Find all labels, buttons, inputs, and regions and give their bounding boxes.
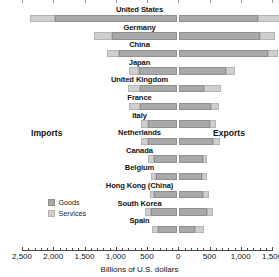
export-services-segment: [207, 208, 213, 215]
export-services-segment: [258, 15, 279, 22]
axis-minor-tick: [203, 248, 204, 251]
export-goods-segment: [179, 226, 195, 233]
axis-major-tick: [53, 247, 54, 251]
axis-tick-label: 500: [203, 252, 216, 261]
chart-row: Italy: [0, 111, 279, 129]
chart-row: Germany: [0, 23, 279, 41]
axis-major-tick: [22, 247, 23, 251]
export-services-segment: [210, 120, 216, 127]
axis-minor-tick: [135, 248, 136, 251]
export-goods-segment: [179, 15, 258, 22]
export-goods-segment: [179, 50, 267, 57]
top-axis-tick: [85, 0, 86, 3]
axis-minor-tick: [78, 248, 79, 251]
bar-group: [0, 85, 279, 92]
bar-group: [0, 32, 279, 39]
country-label: United States: [0, 5, 279, 14]
legend-item: Services: [48, 209, 118, 218]
top-axis-tick: [53, 0, 54, 3]
country-label: United Kingdom: [0, 75, 279, 84]
import-services-segment: [141, 138, 148, 145]
axis-minor-tick: [122, 248, 123, 251]
exports-label: Exports: [213, 128, 245, 138]
top-axis-tick: [178, 0, 179, 3]
top-axis-tick: [272, 0, 273, 3]
axis-minor-tick: [197, 248, 198, 251]
import-goods-segment: [156, 173, 177, 180]
bar-group: [0, 226, 279, 233]
country-label: Belgium: [0, 163, 279, 172]
chart-row: United States: [0, 5, 279, 23]
export-goods-segment: [179, 85, 203, 92]
axis-major-tick: [178, 247, 179, 251]
axis-major-tick: [85, 247, 86, 251]
export-services-segment: [204, 85, 221, 92]
bar-group: [0, 50, 279, 57]
export-goods-segment: [179, 155, 203, 162]
import-goods-segment: [139, 67, 177, 74]
export-services-segment: [203, 191, 210, 198]
import-goods-segment: [112, 32, 177, 39]
import-services-segment: [30, 15, 55, 22]
axis-minor-tick: [60, 248, 61, 251]
export-services-segment: [202, 173, 208, 180]
axis-minor-tick: [66, 248, 67, 251]
axis-minor-tick: [153, 248, 154, 251]
axis-minor-tick: [28, 248, 29, 251]
import-goods-segment: [148, 138, 177, 145]
axis-minor-tick: [103, 248, 104, 251]
bar-group: [0, 67, 279, 74]
import-goods-segment: [151, 208, 177, 215]
chart-row: Belgium: [0, 163, 279, 181]
x-axis: Billions of U.S. dollars 2,5002,0001,500…: [0, 246, 279, 277]
export-services-segment: [268, 50, 279, 57]
axis-title: Billions of U.S. dollars: [0, 265, 279, 274]
plot-area: United StatesGermanyChinaJapanUnited Kin…: [0, 5, 279, 245]
axis-major-tick: [241, 247, 242, 251]
axis-minor-tick: [160, 248, 161, 251]
import-goods-segment: [140, 85, 178, 92]
chart-row: China: [0, 40, 279, 58]
chart-row: Canada: [0, 146, 279, 164]
axis-tick-label: 500: [140, 252, 153, 261]
axis-minor-tick: [260, 248, 261, 251]
top-axis-tick: [116, 0, 117, 3]
bar-group: [0, 155, 279, 162]
axis-minor-tick: [110, 248, 111, 251]
axis-minor-tick: [72, 248, 73, 251]
chart-row: South Korea: [0, 199, 279, 217]
bar-group: [0, 15, 279, 22]
axis-minor-tick: [222, 248, 223, 251]
legend-swatch-services: [48, 210, 55, 217]
bar-group: [0, 103, 279, 110]
axis-tick-label: 1,000: [231, 252, 251, 261]
axis-minor-tick: [228, 248, 229, 251]
import-goods-segment: [55, 15, 177, 22]
import-goods-segment: [148, 120, 177, 127]
import-services-segment: [107, 50, 119, 57]
export-goods-segment: [179, 173, 201, 180]
axis-minor-tick: [216, 248, 217, 251]
axis-tick-label: 1,000: [106, 252, 126, 261]
chart-row: United Kingdom: [0, 75, 279, 93]
country-label: China: [0, 40, 279, 49]
axis-minor-tick: [35, 248, 36, 251]
axis-minor-tick: [172, 248, 173, 251]
axis-major-tick: [272, 247, 273, 251]
axis-major-tick: [116, 247, 117, 251]
axis-minor-tick: [141, 248, 142, 251]
top-axis-tick: [210, 0, 211, 3]
axis-minor-tick: [47, 248, 48, 251]
top-axis-tick: [22, 0, 23, 3]
import-services-segment: [129, 67, 139, 74]
legend-label: Services: [59, 209, 87, 218]
imports-label: Imports: [31, 128, 63, 138]
chart-row: France: [0, 93, 279, 111]
axis-major-tick: [210, 247, 211, 251]
country-label: Japan: [0, 58, 279, 67]
axis-minor-tick: [97, 248, 98, 251]
axis-minor-tick: [91, 248, 92, 251]
axis-minor-tick: [253, 248, 254, 251]
export-services-segment: [195, 226, 204, 233]
country-label: Germany: [0, 23, 279, 32]
